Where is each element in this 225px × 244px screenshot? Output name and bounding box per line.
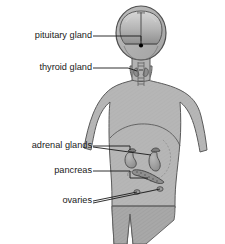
- pituitary-gland-dot: [139, 43, 143, 47]
- endocrine-system-diagram: pituitary gland thyroid gland adrenal gl…: [0, 0, 225, 244]
- label-pancreas: pancreas: [54, 165, 92, 175]
- label-thyroid-gland: thyroid gland: [39, 62, 92, 72]
- label-pituitary-gland: pituitary gland: [35, 30, 92, 40]
- label-ovaries: ovaries: [62, 195, 92, 205]
- label-adrenal-glands: adrenal glands: [32, 140, 93, 150]
- diagram-canvas: pituitary gland thyroid gland adrenal gl…: [0, 0, 225, 244]
